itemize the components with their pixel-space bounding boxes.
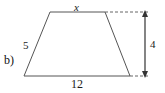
bottom-side-label: 12 bbox=[71, 78, 83, 90]
left-side-label: 5 bbox=[23, 40, 29, 51]
top-side-label: x bbox=[74, 2, 79, 13]
trapezoid-shape bbox=[24, 12, 130, 76]
height-label: 4 bbox=[150, 39, 156, 50]
part-label: b) bbox=[4, 54, 14, 66]
geometry-figure: b) x 5 4 12 bbox=[0, 0, 165, 93]
arrowhead-down-icon bbox=[142, 71, 148, 78]
arrowhead-up-icon bbox=[142, 10, 148, 17]
